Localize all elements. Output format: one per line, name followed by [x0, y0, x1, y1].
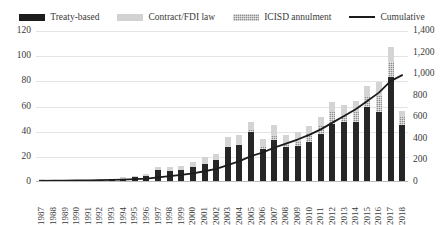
- legend-item-cumulative[interactable]: Cumulative: [349, 12, 424, 22]
- bar-segment[interactable]: [376, 112, 382, 181]
- stacked-bar[interactable]: [248, 122, 254, 181]
- stacked-bar[interactable]: [399, 111, 405, 181]
- stacked-bar[interactable]: [167, 167, 173, 181]
- bar-group[interactable]: [48, 31, 60, 181]
- bar-segment[interactable]: [329, 112, 335, 123]
- bar-segment[interactable]: [318, 134, 324, 182]
- bar-group[interactable]: [176, 31, 188, 181]
- stacked-bar[interactable]: [236, 135, 242, 181]
- bar-segment[interactable]: [353, 122, 359, 181]
- bar-segment[interactable]: [283, 147, 289, 181]
- bar-group[interactable]: [187, 31, 199, 181]
- bar-segment[interactable]: [236, 135, 242, 144]
- bar-segment[interactable]: [236, 145, 242, 181]
- bar-segment[interactable]: [155, 170, 161, 181]
- bar-segment[interactable]: [318, 126, 324, 134]
- bar-group[interactable]: [280, 31, 292, 181]
- stacked-bar[interactable]: [329, 102, 335, 181]
- stacked-bar[interactable]: [225, 137, 231, 181]
- bar-group[interactable]: [362, 31, 374, 181]
- bar-segment[interactable]: [329, 124, 335, 182]
- bar-group[interactable]: [83, 31, 95, 181]
- bar-segment[interactable]: [306, 126, 312, 134]
- stacked-bar[interactable]: [190, 162, 196, 181]
- stacked-bar[interactable]: [271, 125, 277, 181]
- bar-group[interactable]: [385, 31, 397, 181]
- bar-segment[interactable]: [295, 132, 301, 141]
- bar-group[interactable]: [164, 31, 176, 181]
- bar-segment[interactable]: [341, 122, 347, 181]
- stacked-bar[interactable]: [202, 157, 208, 181]
- bar-segment[interactable]: [341, 115, 347, 123]
- stacked-bar[interactable]: [353, 101, 359, 181]
- bar-group[interactable]: [129, 31, 141, 181]
- bar-group[interactable]: [315, 31, 327, 181]
- bar-group[interactable]: [59, 31, 71, 181]
- bar-segment[interactable]: [306, 134, 312, 143]
- bar-segment[interactable]: [353, 112, 359, 122]
- bar-segment[interactable]: [329, 102, 335, 112]
- bar-segment[interactable]: [295, 146, 301, 181]
- stacked-bar[interactable]: [388, 47, 394, 181]
- bar-segment[interactable]: [260, 149, 266, 182]
- stacked-bar[interactable]: [318, 117, 324, 181]
- legend-item-treaty-based[interactable]: Treaty-based: [19, 12, 99, 22]
- bar-group[interactable]: [257, 31, 269, 181]
- stacked-bar[interactable]: [155, 167, 161, 181]
- stacked-bar[interactable]: [376, 82, 382, 181]
- bar-segment[interactable]: [213, 160, 219, 181]
- bar-segment[interactable]: [388, 62, 394, 77]
- bar-segment[interactable]: [260, 139, 266, 147]
- stacked-bar[interactable]: [260, 139, 266, 182]
- bar-segment[interactable]: [248, 122, 254, 130]
- bar-segment[interactable]: [376, 82, 382, 96]
- bar-group[interactable]: [269, 31, 281, 181]
- legend-item-icsid-annulment[interactable]: ICISD annulment: [233, 12, 331, 22]
- bar-segment[interactable]: [399, 125, 405, 181]
- bar-segment[interactable]: [178, 170, 184, 181]
- bar-group[interactable]: [141, 31, 153, 181]
- bar-group[interactable]: [152, 31, 164, 181]
- legend-item-contract-fdi-law[interactable]: Contract/FDI law: [117, 12, 215, 22]
- bar-segment[interactable]: [225, 147, 231, 181]
- bar-segment[interactable]: [318, 117, 324, 126]
- bar-segment[interactable]: [283, 135, 289, 144]
- stacked-bar[interactable]: [213, 154, 219, 182]
- bar-segment[interactable]: [341, 105, 347, 115]
- bar-group[interactable]: [222, 31, 234, 181]
- bar-segment[interactable]: [167, 171, 173, 181]
- bar-segment[interactable]: [306, 142, 312, 181]
- stacked-bar[interactable]: [178, 166, 184, 181]
- bar-group[interactable]: [350, 31, 362, 181]
- bar-group[interactable]: [292, 31, 304, 181]
- bar-group[interactable]: [71, 31, 83, 181]
- stacked-bar[interactable]: [364, 86, 370, 181]
- stacked-bar[interactable]: [306, 126, 312, 181]
- bar-segment[interactable]: [399, 116, 405, 125]
- bar-segment[interactable]: [364, 107, 370, 181]
- bar-segment[interactable]: [388, 77, 394, 181]
- bar-segment[interactable]: [353, 101, 359, 112]
- bar-group[interactable]: [234, 31, 246, 181]
- bar-segment[interactable]: [388, 47, 394, 62]
- bar-segment[interactable]: [364, 86, 370, 96]
- bar-segment[interactable]: [271, 125, 277, 135]
- bar-group[interactable]: [338, 31, 350, 181]
- bar-group[interactable]: [373, 31, 385, 181]
- stacked-bar[interactable]: [341, 105, 347, 181]
- bar-group[interactable]: [94, 31, 106, 181]
- stacked-bar[interactable]: [295, 132, 301, 181]
- bar-group[interactable]: [36, 31, 48, 181]
- bar-segment[interactable]: [202, 164, 208, 182]
- bar-group[interactable]: [303, 31, 315, 181]
- bar-group[interactable]: [210, 31, 222, 181]
- bar-group[interactable]: [327, 31, 339, 181]
- stacked-bar[interactable]: [283, 135, 289, 181]
- bar-group[interactable]: [396, 31, 408, 181]
- bar-group[interactable]: [106, 31, 118, 181]
- bar-group[interactable]: [245, 31, 257, 181]
- bar-segment[interactable]: [248, 132, 254, 181]
- bar-segment[interactable]: [271, 140, 277, 181]
- bar-group[interactable]: [199, 31, 211, 181]
- bar-group[interactable]: [117, 31, 129, 181]
